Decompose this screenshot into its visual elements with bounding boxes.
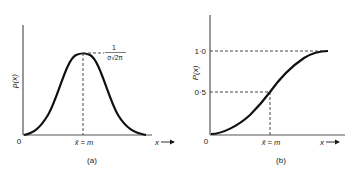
panel-b-origin-label: 0 [204, 137, 209, 146]
panel-b-ytick-1: 1·0 [194, 47, 206, 56]
panel-a-y-label: p(x) [10, 74, 19, 89]
peak-numerator: 1 [112, 44, 116, 51]
peak-denominator: σ√2π [107, 54, 123, 61]
panel-a-x-label: x [154, 138, 160, 147]
panel-b-x-label: x [319, 138, 325, 147]
panel-b-ytick-half: 0·5 [194, 88, 206, 97]
panel-a: 1 σ√2π p(x) 0 x̄ = m x (a) [10, 25, 174, 165]
panel-b-cdf-curve [211, 51, 328, 134]
panel-b-mean-label: x̄ = m [261, 138, 281, 147]
panel-b-y-label: P(x) [191, 65, 200, 80]
panel-a-caption: (a) [87, 156, 97, 165]
panel-a-bell-curve [24, 54, 146, 136]
figure: 1 σ√2π p(x) 0 x̄ = m x (a) 1·0 0·5 P(x) … [0, 0, 355, 173]
panel-a-origin-label: 0 [17, 137, 22, 146]
panel-a-mean-label: x̄ = m [74, 138, 94, 147]
panel-b: 1·0 0·5 P(x) 0 x̄ = m x (b) [191, 15, 345, 165]
panel-b-caption: (b) [276, 156, 286, 165]
